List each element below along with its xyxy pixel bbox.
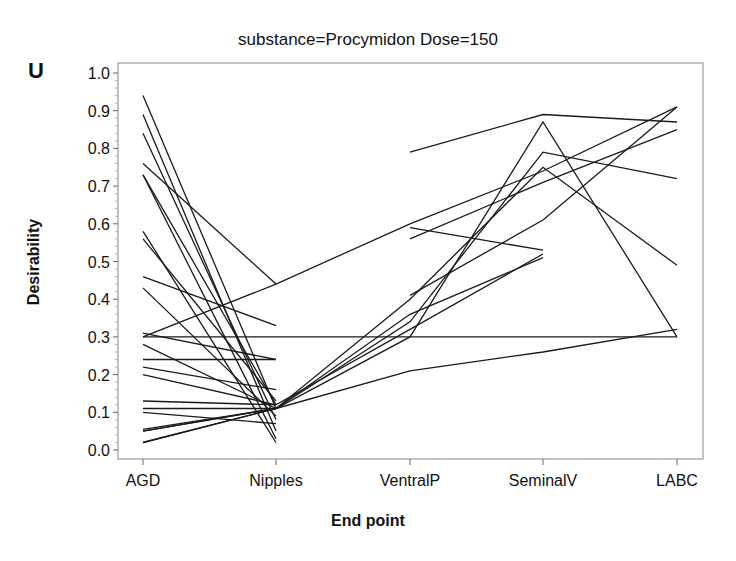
series-line: [410, 107, 677, 296]
y-tick-label: 0.0: [88, 442, 110, 459]
y-axis: 0.00.10.20.30.40.50.60.70.80.91.0: [88, 65, 118, 459]
series-line: [143, 401, 276, 405]
plot-frame: [118, 63, 703, 459]
y-tick-label: 0.9: [88, 103, 110, 120]
x-tick-label: SeminalV: [509, 472, 578, 489]
x-axis: AGDNipplesVentralPSeminalVLABC: [126, 459, 698, 489]
x-tick-label: AGD: [126, 472, 161, 489]
series-line: [410, 130, 677, 239]
series-line: [143, 375, 276, 405]
y-tick-label: 0.1: [88, 404, 110, 421]
y-tick-label: 0.8: [88, 140, 110, 157]
x-tick-label: LABC: [656, 472, 698, 489]
series-line: [143, 277, 276, 326]
y-tick-label: 1.0: [88, 65, 110, 82]
y-tick-label: 0.2: [88, 367, 110, 384]
series-line: [143, 107, 677, 337]
series-lines: [143, 96, 677, 443]
y-tick-label: 0.5: [88, 254, 110, 271]
y-tick-label: 0.4: [88, 291, 110, 308]
series-line: [276, 254, 543, 405]
x-tick-label: VentralP: [380, 472, 440, 489]
series-line: [143, 115, 276, 432]
y-tick-label: 0.3: [88, 329, 110, 346]
series-line: [143, 329, 677, 442]
y-tick-label: 0.7: [88, 178, 110, 195]
plot-area: 0.00.10.20.30.40.50.60.70.80.91.0 AGDNip…: [0, 0, 736, 561]
series-line: [410, 115, 677, 153]
series-line: [143, 164, 276, 285]
series-line: [143, 152, 677, 431]
x-tick-label: Nipples: [249, 472, 302, 489]
series-line: [143, 96, 276, 409]
y-tick-label: 0.6: [88, 216, 110, 233]
